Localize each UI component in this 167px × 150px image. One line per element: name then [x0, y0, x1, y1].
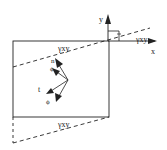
sheared-top-edge — [13, 28, 150, 67]
t-arrow-icon — [46, 88, 54, 94]
x-axis-label: x — [151, 47, 155, 56]
t-label: t — [38, 85, 41, 94]
gamma-top-label: γxy — [57, 44, 70, 53]
n-label: n — [51, 57, 55, 65]
n-vector — [59, 65, 68, 80]
phi-upper-label: ϕ — [50, 65, 54, 73]
gamma-axis-label: γxy — [135, 35, 148, 44]
t-vector — [51, 80, 68, 91]
n-arrow-icon — [55, 58, 63, 68]
shear-diagram: γxy γxy γxy x y n ϕ t ϕ — [0, 0, 167, 150]
y-axis-arrow-icon — [105, 14, 111, 24]
x-axis-arrow-icon — [148, 38, 157, 44]
phi-lower-label: ϕ — [46, 98, 50, 106]
y-axis-label: y — [99, 15, 103, 24]
gamma-bottom-label: γxy — [57, 120, 70, 129]
